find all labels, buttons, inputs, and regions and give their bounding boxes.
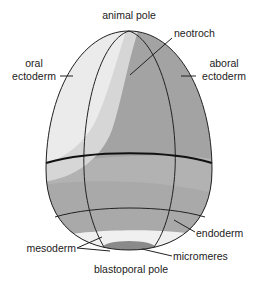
blastoporal-pole-label: blastoporal pole	[94, 263, 168, 275]
embryo-diagram: animal pole neotroch oral ectoderm abora…	[0, 0, 258, 283]
mesoderm-label: mesoderm	[26, 242, 76, 254]
neotroch-label: neotroch	[174, 27, 215, 39]
oral-ectoderm-label: ectoderm	[12, 70, 56, 82]
micromeres-region	[103, 241, 155, 253]
mesoderm-leader-2	[77, 248, 110, 251]
aboral-label: aboral	[209, 57, 238, 69]
aboral-ectoderm-label: ectoderm	[202, 70, 246, 82]
micromeres-label: micromeres	[173, 250, 228, 262]
animal-pole-label: animal pole	[102, 9, 156, 21]
micromeres-leader	[142, 249, 172, 256]
endoderm-label: endoderm	[196, 227, 244, 239]
oral-label: oral	[25, 57, 43, 69]
